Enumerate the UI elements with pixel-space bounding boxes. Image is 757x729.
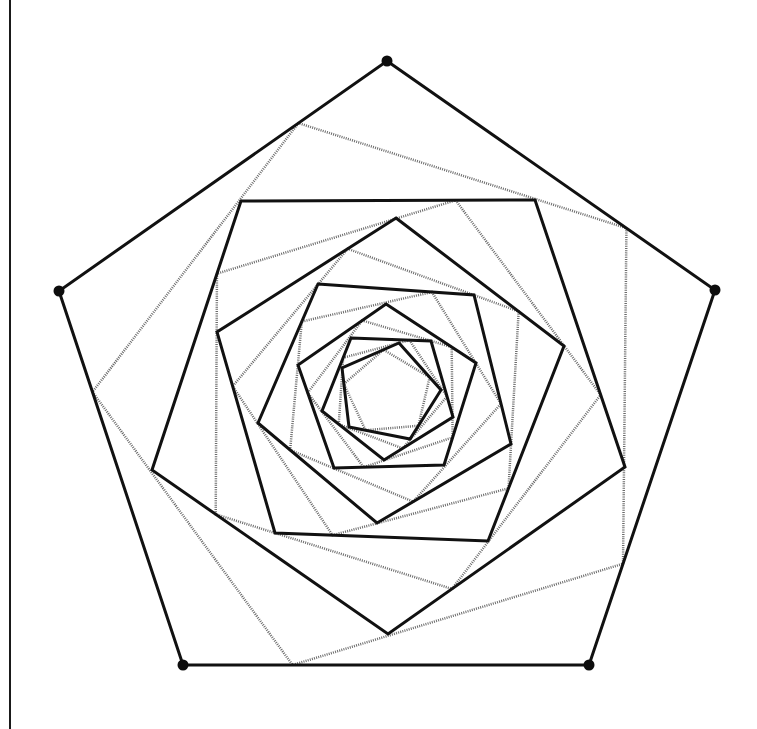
solid-pentagon-1 <box>152 200 625 634</box>
solid-pentagon-3 <box>258 284 511 523</box>
solid-pentagon-2 <box>217 218 564 541</box>
solid-pentagon-0 <box>59 61 715 665</box>
vertex-dot-1 <box>710 285 721 296</box>
vertex-dot-3 <box>178 660 189 671</box>
dotted-pentagon-2 <box>233 249 519 535</box>
vertex-dot-2 <box>584 660 595 671</box>
vertex-dot-0 <box>382 56 393 67</box>
vertex-dot-4 <box>54 286 65 297</box>
solid-pentagons <box>59 61 715 665</box>
pentagon-diagram <box>0 0 757 729</box>
